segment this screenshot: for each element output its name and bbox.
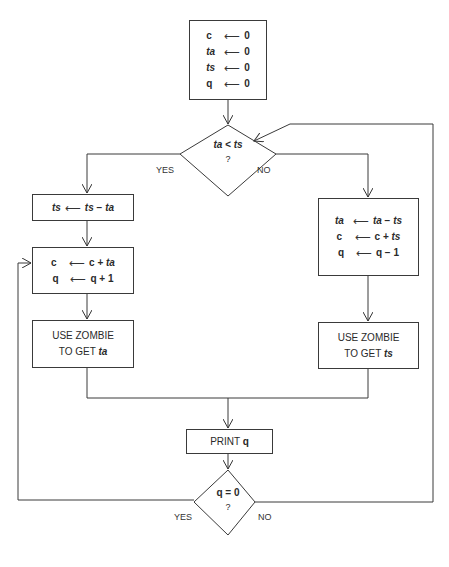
assign-arrow-icon: ⟵ (224, 44, 240, 60)
assign-arrow-icon: ⟵ (224, 28, 240, 44)
assign-arrow-icon: ⟵ (69, 255, 85, 271)
decision-1-no-label: NO (257, 165, 271, 175)
assign-arrow-icon: ⟵ (355, 229, 371, 245)
decision-1-question: ? (200, 152, 256, 166)
assign-arrow-icon: ⟵ (65, 200, 81, 216)
assign-arrow-icon: ⟵ (70, 271, 86, 287)
init-row-c: c ⟵ 0 (206, 28, 250, 44)
decision-2-condition: q = 0 (202, 486, 254, 500)
decision-2-no-label: NO (258, 512, 272, 522)
print-q-box: PRINT q (186, 429, 273, 454)
arrow-no-loop (254, 124, 433, 502)
init-row-ts: ts ⟵ 0 (206, 60, 250, 76)
decision-2-question: ? (202, 500, 254, 514)
zombie-ta-box: USE ZOMBIE TO GET ta (32, 320, 134, 368)
init-row-ta: ta ⟵ 0 (206, 44, 250, 60)
assign-arrow-icon: ⟵ (356, 245, 372, 261)
arrow-yes-loop (18, 263, 194, 500)
assign-arrow-icon: ⟵ (353, 213, 369, 229)
arrow-no-branch (276, 154, 368, 197)
decision-1-condition: ta < ts (200, 138, 256, 152)
decision-1-text: ta < ts ? (200, 138, 256, 166)
update-ta-c-q-box: ta ⟵ ta − ts c ⟵ c + ts q ⟵ q − 1 (318, 198, 419, 276)
decision-2-yes-label: YES (174, 512, 192, 522)
init-row-q: q ⟵ 0 (206, 76, 250, 92)
assign-arrow-icon: ⟵ (224, 60, 240, 76)
assign-ts-box: ts ⟵ ts − ta (32, 194, 134, 221)
update-c-q-box: c ⟵ c + ta q ⟵ q + 1 (32, 247, 134, 294)
decision-2-text: q = 0 ? (202, 486, 254, 514)
init-box: c ⟵ 0 ta ⟵ 0 ts ⟵ 0 q ⟵ 0 (189, 20, 267, 100)
zombie-ts-box: USE ZOMBIE TO GET ts (318, 322, 419, 369)
assign-arrow-icon: ⟵ (224, 76, 240, 92)
decision-1-yes-label: YES (156, 165, 174, 175)
